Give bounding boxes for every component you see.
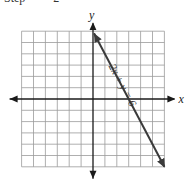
x-axis-left-arrow <box>10 96 18 103</box>
y-axis-label: y <box>88 8 95 22</box>
line-equation-label: 2x + y = 6 <box>107 62 140 109</box>
y-axis-bottom-arrow <box>90 171 97 179</box>
coordinate-plane: x y 2x + y = 6 <box>0 0 193 180</box>
x-axis-label: x <box>177 92 184 106</box>
